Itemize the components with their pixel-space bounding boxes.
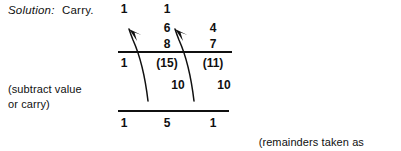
carry-arrows-group	[0, 0, 401, 151]
carry-arrow-right	[175, 29, 194, 101]
carry-arrow-left	[129, 29, 148, 101]
worked-example-page: Solution: Carry. (subtract value or carr…	[0, 0, 401, 151]
